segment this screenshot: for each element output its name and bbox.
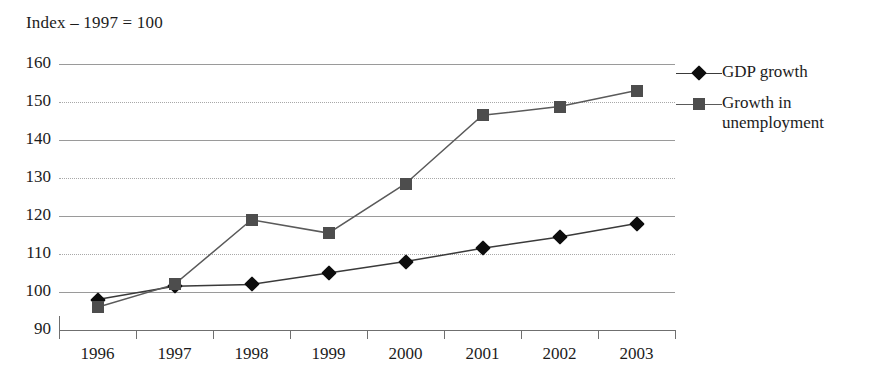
- x-axis-tick-label: 1999: [293, 344, 365, 364]
- y-axis-tick-label: 150: [7, 91, 51, 111]
- series-group: [59, 58, 675, 336]
- series-line: [98, 91, 637, 308]
- x-axis-line: [59, 330, 675, 331]
- legend-item[interactable]: GDP growth: [676, 62, 872, 84]
- y-axis-tick-label: 130: [7, 167, 51, 187]
- x-axis-tick-label: 2002: [524, 344, 596, 364]
- data-point-marker: [246, 214, 258, 226]
- data-point-marker: [169, 278, 181, 290]
- legend-marker-square-icon: [676, 94, 722, 115]
- data-point-marker: [477, 109, 489, 121]
- y-axis-line: [59, 316, 60, 330]
- y-axis-tick-label: 140: [7, 129, 51, 149]
- y-axis-tick-label: 100: [7, 281, 51, 301]
- x-axis-tick: [675, 330, 676, 339]
- data-point-marker: [631, 85, 643, 97]
- x-axis-tick-label: 2001: [447, 344, 519, 364]
- data-point-marker: [554, 101, 566, 113]
- chart-title: Index – 1997 = 100: [26, 13, 163, 33]
- legend-item[interactable]: Growth in unemployment: [676, 93, 872, 133]
- chart-figure: Index – 1997 = 100 901001101201301401501…: [0, 0, 877, 385]
- series-lines: [59, 58, 675, 336]
- plot-area: [59, 58, 675, 336]
- data-point-marker: [323, 227, 335, 239]
- x-axis-tick-label: 1997: [139, 344, 211, 364]
- y-axis-tick-label: 120: [7, 205, 51, 225]
- y-axis-tick-label: 90: [7, 319, 51, 339]
- data-point-marker: [400, 178, 412, 190]
- y-axis-tick-label: 160: [7, 53, 51, 73]
- x-axis-tick-label: 1998: [216, 344, 288, 364]
- data-point-marker: [92, 301, 104, 313]
- y-axis-tick-label: 110: [7, 243, 51, 263]
- legend-marker-diamond-icon: [676, 63, 722, 84]
- legend-label: GDP growth: [722, 62, 808, 82]
- legend-label: Growth in unemployment: [722, 93, 872, 133]
- x-axis-tick-label: 2003: [601, 344, 673, 364]
- x-axis-tick-label: 2000: [370, 344, 442, 364]
- chart-legend: GDP growthGrowth in unemployment: [676, 62, 872, 142]
- x-axis-tick-label: 1996: [62, 344, 134, 364]
